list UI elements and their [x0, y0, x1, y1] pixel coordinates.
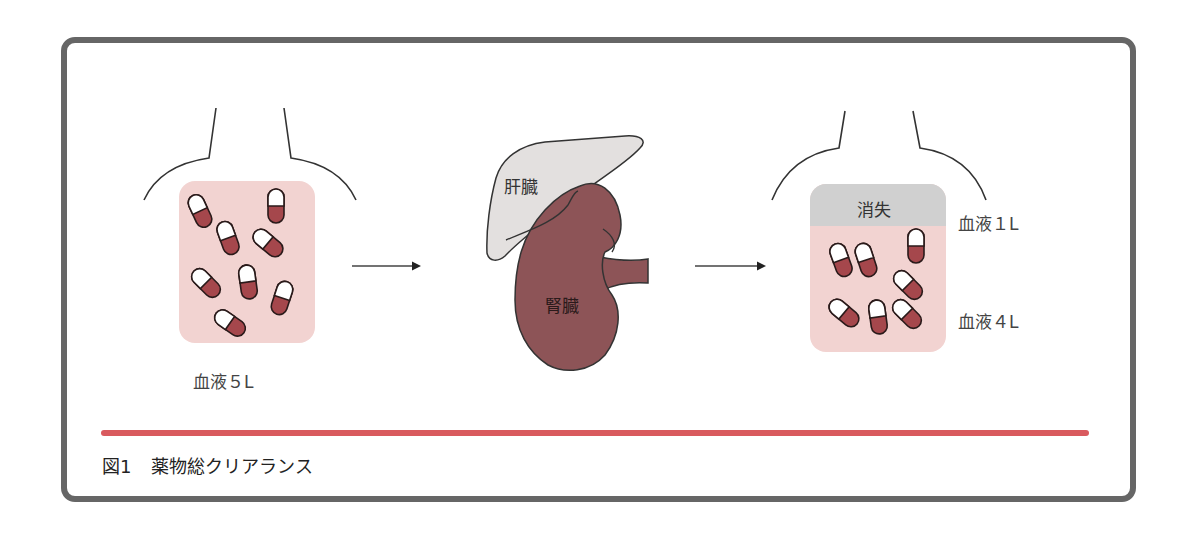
blood-label-right-top: 血液１L: [958, 210, 1018, 235]
figure-caption: 図1薬物総クリアランス: [102, 452, 313, 478]
arrow-right-icon: [695, 262, 766, 271]
eliminated-label: 消失: [857, 196, 891, 221]
blood-label-right-bottom: 血液４L: [958, 308, 1018, 333]
liver-label: 肝臓: [504, 173, 538, 198]
caption-divider: [101, 430, 1089, 436]
arrow-right-icon: [352, 262, 421, 271]
caption-title: 薬物総クリアランス: [151, 456, 313, 477]
caption-number: 図1: [102, 456, 131, 477]
kidney-hilum: [600, 257, 648, 290]
kidney-label: 腎臓: [545, 292, 579, 317]
blood-label-left: 血液５L: [193, 368, 253, 393]
